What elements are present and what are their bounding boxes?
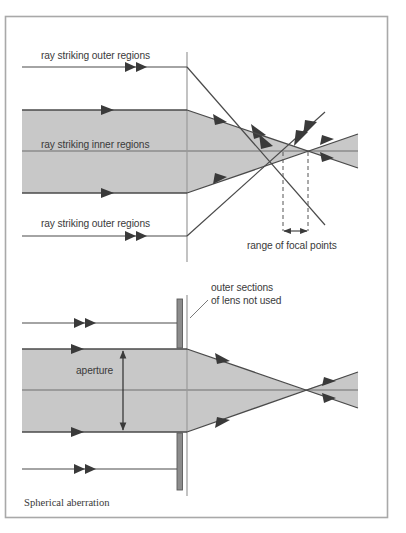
aperture-stop-upper xyxy=(177,299,183,348)
label-ray-outer-top: ray striking outer regions xyxy=(41,50,150,61)
label-outer-sections-line2: of lens not used xyxy=(211,295,282,306)
figure-root: ray striking outer regions ray striking … xyxy=(0,0,406,533)
label-outer-sections-line1: outer sections xyxy=(211,282,273,293)
aperture-stop-lower xyxy=(177,433,183,490)
label-range-of-focal-points: range of focal points xyxy=(247,240,337,251)
label-ray-outer-bottom: ray striking outer regions xyxy=(41,218,150,229)
figure-frame xyxy=(6,17,388,518)
label-aperture: aperture xyxy=(76,365,114,376)
figure-caption: Spherical aberration xyxy=(24,497,110,508)
label-ray-inner: ray striking inner regions xyxy=(41,139,149,150)
spherical-aberration-diagram: ray striking outer regions ray striking … xyxy=(0,0,406,533)
